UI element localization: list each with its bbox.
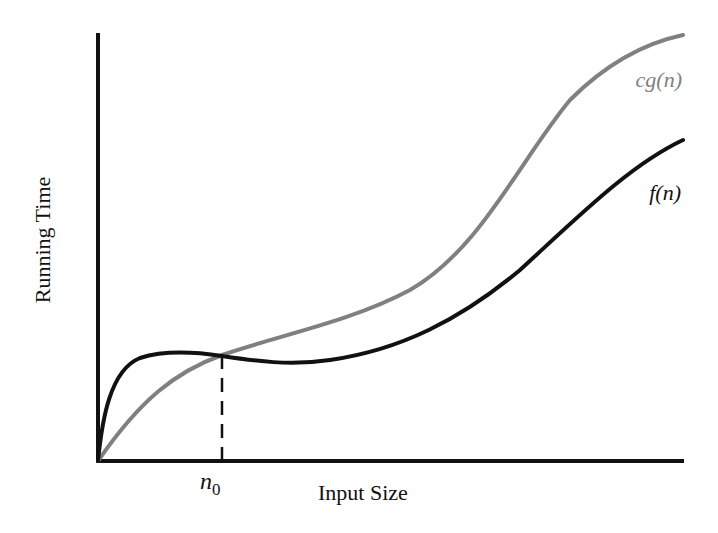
n0-label: n0 (200, 468, 221, 499)
f-n-label: f(n) (649, 180, 681, 205)
n0-main: n (200, 468, 212, 494)
cg-n-label: cg(n) (636, 67, 682, 92)
x-axis-label: Input Size (318, 480, 408, 505)
y-axis-label: Running Time (30, 177, 55, 304)
big-o-chart: cg(n) f(n) n0 Input Size Running Time (0, 0, 718, 533)
cg-n-curve (98, 35, 683, 461)
n0-subscript: 0 (212, 480, 221, 499)
